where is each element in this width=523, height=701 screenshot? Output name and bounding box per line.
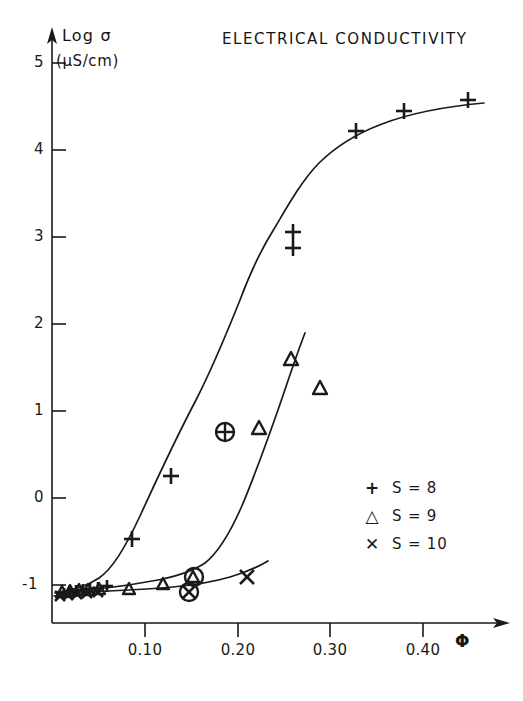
plot-canvas	[0, 0, 523, 701]
plus-marker-icon: +	[360, 480, 384, 497]
chart-title: ELECTRICAL CONDUCTIVITY	[222, 30, 468, 48]
x-tick-label-010: 0.10	[119, 641, 171, 659]
x-tick-label-030: 0.30	[304, 641, 356, 659]
y-tick-label-5: 5	[18, 53, 44, 71]
legend-entry-s8: + S = 8	[360, 474, 448, 502]
legend-entry-s9: △ S = 9	[360, 502, 448, 530]
y-tick-label-1: 1	[18, 401, 44, 419]
y-tick-label-4: 4	[18, 140, 44, 158]
y-tick-label-2: 2	[18, 314, 44, 332]
x-axis-title: Φ	[455, 631, 470, 651]
legend-entry-s10: ✕ S = 10	[360, 530, 448, 558]
markers-s9	[56, 352, 327, 597]
y-axis-units-label: (μS/cm)	[56, 52, 119, 70]
coincident-marker-circles	[180, 423, 234, 601]
legend-label-s10: S = 10	[384, 535, 448, 553]
triangle-marker-icon: △	[360, 508, 384, 525]
y-tick-label-neg1: -1	[12, 575, 38, 593]
y-axis-ticks	[52, 63, 66, 585]
curve-s9	[55, 333, 305, 593]
x-axis-ticks	[145, 623, 423, 637]
chart-figure: ELECTRICAL CONDUCTIVITY Log σ (μS/cm) Φ …	[0, 0, 523, 701]
cross-marker-icon: ✕	[360, 536, 384, 553]
y-axis-title: Log σ	[62, 26, 112, 45]
legend-label-s9: S = 9	[384, 507, 437, 525]
x-tick-label-040: 0.40	[397, 641, 449, 659]
legend-label-s8: S = 8	[384, 479, 437, 497]
chart-legend: + S = 8 △ S = 9 ✕ S = 10	[360, 474, 448, 558]
y-tick-label-3: 3	[18, 227, 44, 245]
x-tick-label-020: 0.20	[212, 641, 264, 659]
y-tick-label-0: 0	[18, 488, 44, 506]
